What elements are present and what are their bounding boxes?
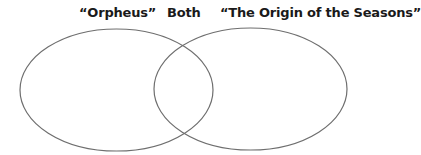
venn-diagram xyxy=(0,0,405,155)
